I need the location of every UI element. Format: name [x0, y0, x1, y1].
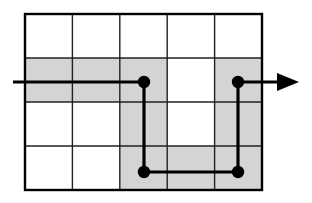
- shaded-cell: [72, 58, 119, 102]
- path-arrowhead-icon: [277, 73, 299, 91]
- shaded-cell: [25, 58, 72, 102]
- node-top-right: [232, 76, 244, 88]
- shaded-cell: [167, 146, 214, 190]
- node-top-left: [138, 76, 150, 88]
- figure-canvas: [0, 0, 312, 203]
- grid-path-figure: [0, 0, 312, 203]
- arrowhead-layer: [277, 73, 299, 91]
- node-bottom-left: [138, 166, 150, 178]
- node-bottom-right: [232, 166, 244, 178]
